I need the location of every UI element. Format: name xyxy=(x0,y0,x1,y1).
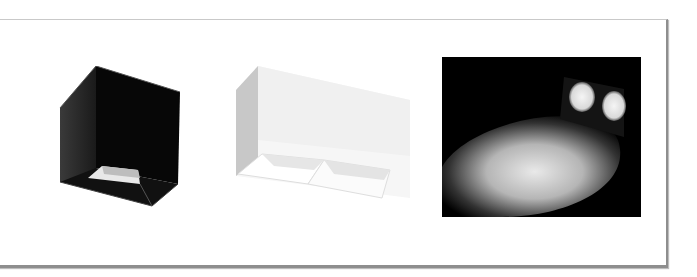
light-output-photo xyxy=(442,57,641,217)
lamp-left-icon xyxy=(569,82,595,112)
black-downlight-image xyxy=(58,66,182,212)
white-downlight-image xyxy=(234,66,410,201)
lamp-right-icon xyxy=(602,91,626,121)
